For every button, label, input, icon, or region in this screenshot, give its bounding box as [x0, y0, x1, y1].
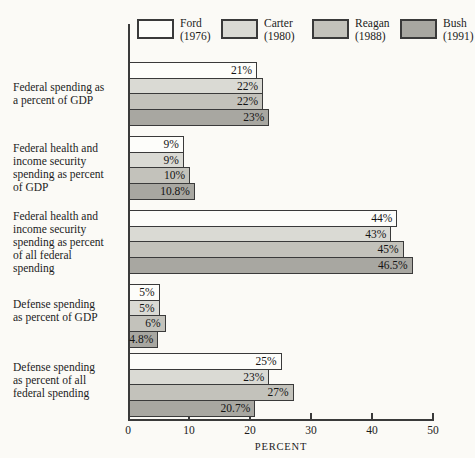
group-label: Defense spending as percent of GDP [13, 298, 125, 324]
x-axis-title: PERCENT [128, 441, 434, 452]
bar-reagan: 45% [129, 241, 404, 258]
bar-ford: 21% [129, 62, 257, 79]
bar-value-label: 5% [139, 301, 154, 315]
bar-value-label: 9% [164, 153, 179, 167]
bar-reagan: 27% [129, 384, 294, 401]
legend-entry-bush: Bush (1991) [400, 17, 474, 43]
bar-reagan: 22% [129, 93, 263, 110]
bar-value-label: 27% [268, 385, 289, 399]
bar-value-label: 21% [231, 63, 252, 77]
bar-ford: 5% [129, 284, 160, 301]
bar-carter: 5% [129, 300, 160, 317]
bar-value-label: 4.8% [129, 332, 153, 346]
bar-group-federal-spending-gdp: Federal spending as a percent of GDP 21%… [0, 62, 475, 126]
bar-value-label: 10% [164, 168, 185, 182]
bar-value-label: 46.5% [378, 258, 408, 272]
bar-ford: 25% [129, 353, 282, 370]
bar-chart-figure: Ford (1976) Carter (1980) Reagan (1988) … [0, 0, 475, 458]
bar-value-label: 44% [371, 211, 392, 225]
legend-label-carter: Carter (1980) [264, 17, 295, 43]
bar-reagan: 10% [129, 167, 190, 184]
bar-carter: 43% [129, 226, 391, 243]
bar-bush: 10.8% [129, 183, 195, 200]
bar-group-health-income-federal: Federal health and income security spend… [0, 210, 475, 274]
bar-value-label: 10.8% [160, 184, 190, 198]
bar-bush: 4.8% [129, 331, 158, 348]
x-tick-label-50: 50 [418, 424, 448, 436]
legend-entry-ford: Ford (1976) [137, 17, 211, 43]
group-label: Federal health and income security spend… [13, 210, 125, 275]
legend-entry-reagan: Reagan (1988) [312, 17, 389, 43]
bar-ford: 9% [129, 136, 184, 153]
bar-value-label: 23% [243, 370, 264, 384]
bar-bush: 46.5% [129, 257, 413, 274]
legend-swatch-bush [400, 19, 437, 39]
legend-label-reagan: Reagan (1988) [355, 17, 389, 43]
group-label: Federal health and income security spend… [13, 142, 125, 194]
bar-value-label: 45% [377, 242, 398, 256]
bar-value-label: 20.7% [221, 401, 251, 415]
x-axis-line [128, 419, 434, 421]
x-tick-label-0: 0 [113, 424, 143, 436]
legend-label-ford: Ford (1976) [180, 17, 211, 43]
bar-bush: 20.7% [129, 400, 255, 417]
bar-value-label: 43% [365, 227, 386, 241]
bar-group-health-income-gdp: Federal health and income security spend… [0, 136, 475, 200]
bar-value-label: 22% [237, 94, 258, 108]
bar-value-label: 5% [139, 285, 154, 299]
legend-swatch-ford [137, 19, 174, 39]
bar-value-label: 25% [255, 354, 276, 368]
x-tick-label-20: 20 [235, 424, 265, 436]
bar-value-label: 9% [164, 137, 179, 151]
bar-reagan: 6% [129, 315, 166, 332]
bar-bush: 23% [129, 109, 269, 126]
bar-carter: 9% [129, 152, 184, 169]
legend-entry-carter: Carter (1980) [221, 17, 295, 43]
bar-stack: 5% 5% 6% 4.8% [129, 284, 166, 348]
legend-label-bush: Bush (1991) [443, 17, 474, 43]
bar-stack: 44% 43% 45% 46.5% [129, 210, 413, 274]
x-tick-label-30: 30 [296, 424, 326, 436]
bar-carter: 22% [129, 78, 263, 95]
bar-group-defense-gdp: Defense spending as percent of GDP 5% 5%… [0, 284, 475, 348]
bar-stack: 21% 22% 22% 23% [129, 62, 269, 126]
group-label: Federal spending as a percent of GDP [13, 81, 125, 107]
bar-ford: 44% [129, 210, 397, 227]
x-tick-label-10: 10 [174, 424, 204, 436]
legend-swatch-reagan [312, 19, 349, 39]
legend-swatch-carter [221, 19, 258, 39]
bar-stack: 25% 23% 27% 20.7% [129, 353, 294, 417]
bar-stack: 9% 9% 10% 10.8% [129, 136, 195, 200]
bar-value-label: 23% [243, 110, 264, 124]
bar-carter: 23% [129, 369, 269, 386]
group-label: Defense spending as percent of all feder… [13, 361, 125, 400]
bar-value-label: 22% [237, 79, 258, 93]
x-tick-label-40: 40 [357, 424, 387, 436]
bar-value-label: 6% [145, 316, 160, 330]
bar-group-defense-federal: Defense spending as percent of all feder… [0, 353, 475, 417]
